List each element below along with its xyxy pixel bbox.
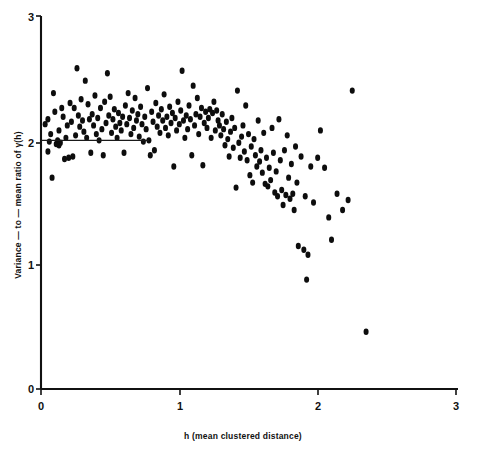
data-point [236,140,241,146]
data-point [303,193,308,199]
data-point [311,199,316,205]
data-point [149,109,154,115]
data-point [245,157,250,163]
data-point [142,114,147,120]
data-point [293,143,298,149]
data-point [159,106,164,112]
y-tick-label-1: 1 [28,259,34,271]
data-point [220,111,225,117]
data-point [119,127,124,133]
data-point [155,123,160,129]
data-point [134,117,139,123]
data-point [224,118,229,124]
data-point [160,117,165,123]
x-tick-label-0: 0 [38,400,44,412]
data-point [240,122,245,128]
data-point [162,91,167,97]
data-point [265,183,270,189]
y-tick-label-2: 2 [28,137,34,149]
data-point [191,82,196,88]
data-point [281,202,286,208]
data-point [318,127,323,133]
data-point [260,169,265,175]
data-point [238,155,243,161]
data-point [62,156,67,162]
data-point [45,148,50,154]
data-point [47,138,52,144]
plot-canvas: 3 2 1 0 0 1 2 3 h (mean clustered distan… [0,0,477,455]
data-point [167,104,172,110]
data-point [166,132,171,138]
data-point [364,329,369,335]
y-tick-label-3: 3 [28,11,34,23]
data-point [86,101,91,107]
data-point [271,150,276,156]
data-point [77,123,82,129]
data-point [79,96,84,102]
data-point [188,116,193,122]
data-point [315,155,320,161]
data-point [116,110,121,116]
data-point [301,247,306,253]
data-point [192,122,197,128]
data-point [326,214,331,220]
data-point [91,122,96,128]
data-point [175,99,180,105]
data-point [185,126,190,132]
data-point [261,130,266,136]
data-point [112,106,117,112]
data-points-group [43,65,369,335]
x-axis-title: h (mean clustered distance) [184,431,302,441]
data-point [189,152,194,158]
data-point [198,114,203,120]
data-point [135,111,140,117]
data-point [171,163,176,169]
data-point [139,121,144,127]
data-point [231,145,236,151]
data-point [275,193,280,199]
data-point [81,128,86,134]
y-tick-label-0: 0 [28,383,34,395]
data-point [253,152,258,158]
data-point [156,112,161,118]
data-point [163,125,168,131]
data-point [144,126,149,132]
data-point [45,116,50,122]
data-point [242,148,247,154]
data-point [180,68,185,74]
data-point [249,143,254,149]
data-point [232,125,237,131]
data-point [110,116,115,122]
data-point [229,115,234,121]
data-point [157,130,162,136]
data-point [304,276,309,282]
data-point [145,85,150,91]
data-point [299,153,304,159]
data-point [257,158,262,164]
data-point [267,164,272,170]
data-point [211,99,216,105]
data-point [218,132,223,138]
data-point [292,207,297,213]
data-point [95,115,100,121]
data-point [182,135,187,141]
data-point [335,191,340,197]
data-point [173,115,178,121]
data-point [61,114,66,120]
data-point [113,123,118,129]
data-point [278,157,283,163]
data-point [102,99,107,105]
data-point [72,105,77,111]
data-point [94,131,99,137]
data-point [122,150,127,156]
data-point [285,132,290,138]
data-point [279,187,284,193]
data-point [221,126,226,132]
data-point [294,179,299,185]
data-point [239,133,244,139]
data-point [308,163,313,169]
data-point [90,111,95,117]
data-point [200,162,205,168]
data-point [120,114,125,120]
data-point [247,172,252,178]
